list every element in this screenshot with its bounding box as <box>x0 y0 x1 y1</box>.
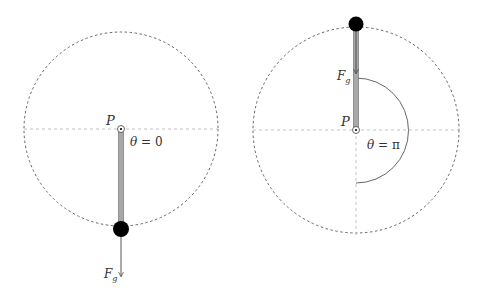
left-angle-label: θ = 0 <box>130 135 163 149</box>
left-rod <box>119 132 124 229</box>
right-pendulum: P θ = π Fg <box>253 17 459 237</box>
left-bob <box>113 221 129 237</box>
right-angle-label: θ = π <box>367 138 400 152</box>
left-pivot-label: P <box>105 113 115 128</box>
right-angle-arc <box>356 78 409 183</box>
right-pivot-dot <box>355 129 357 131</box>
pendulum-diagram: P θ = 0 Fg P θ = π Fg <box>0 0 477 296</box>
right-pivot-label: P <box>340 114 350 129</box>
left-pendulum: P θ = 0 Fg <box>24 32 218 283</box>
right-bob <box>349 17 364 32</box>
right-force-label: Fg <box>336 69 350 85</box>
left-pivot-dot <box>120 128 122 130</box>
left-force-label: Fg <box>103 267 117 283</box>
